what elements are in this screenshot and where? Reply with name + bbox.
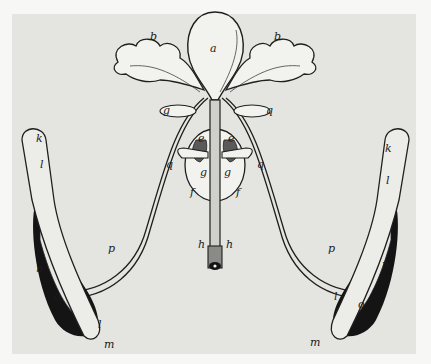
label-q-left: q [166,158,173,171]
label-o-left: o [54,290,61,303]
label-l-left-bottom: l [98,318,102,331]
label-e-left: e [198,132,205,145]
label-m-left: m [104,338,114,351]
urethra [210,100,220,250]
label-a: a [210,42,217,55]
label-g-right: g [224,166,231,179]
label-h-right: h [226,238,233,251]
right-upper-gland [234,105,270,117]
right-duct [222,98,368,298]
label-l-right-top: l [386,174,390,187]
label-q-right: q [257,158,264,171]
label-l-right-bottom: l [334,290,338,303]
label-b-right: b [274,30,281,43]
label-b-left: b [150,30,157,43]
label-o-right: o [358,298,365,311]
label-n-left: n [36,262,43,275]
left-duct [62,98,208,298]
label-m-right: m [310,336,320,349]
label-q-top-right: q [266,104,273,117]
urethra-lumen [213,264,216,267]
left-duct-inner [60,98,204,292]
label-l-left-top: l [40,158,44,171]
label-h-left: h [198,238,205,251]
label-g-left: g [200,166,207,179]
label-k-left: k [36,132,43,145]
label-k-right: k [385,142,392,155]
label-p-right: p [328,242,335,255]
right-duct-inner [226,98,370,292]
label-e-right: e [228,132,235,145]
label-n-right: n [382,258,389,271]
label-f-right: f [235,186,242,199]
anatomical-figure: a b b g q e e q q g g f f h h k k l l l … [0,0,431,364]
label-g-top-left: g [163,104,170,117]
label-p-left: p [108,242,115,255]
